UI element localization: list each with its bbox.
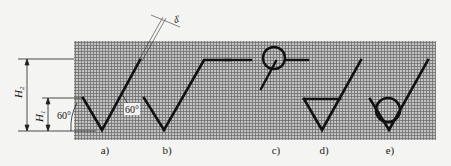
caption-a: a) (101, 144, 110, 156)
caption-e: e) (386, 144, 395, 156)
caption-c: c) (272, 144, 281, 156)
diagram-canvas: H2 H1 60° d′ 60° (0, 0, 451, 166)
caption-b: b) (162, 144, 171, 156)
grid-area (74, 41, 436, 140)
caption-d: d) (319, 144, 328, 156)
h2-label: H2 (12, 86, 26, 99)
angle-right-label: 60° (125, 104, 139, 115)
h1-label: H1 (33, 111, 47, 123)
angle-left-label: 60° (57, 110, 71, 121)
line-width-label: d′ (171, 13, 182, 25)
